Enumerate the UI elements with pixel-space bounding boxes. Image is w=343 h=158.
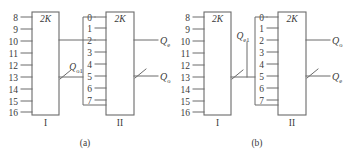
panel-b-chip-1-pin-12: 12	[181, 61, 191, 71]
panel-b-output-label-1: Qo	[332, 35, 342, 48]
panel-b-chip-2-pin-1: 1	[259, 24, 264, 34]
panel-a-output-bus-slash-icon	[135, 69, 146, 78]
panel-a-chip-2-type: 2K	[114, 14, 126, 24]
panel-a-chip-2-pin-1: 1	[87, 24, 92, 34]
panel-b-chip-1-roman: I	[216, 118, 219, 128]
panel-a-chip-1-pin-16: 16	[9, 108, 19, 118]
panel-b-chip-1-pin-9: 9	[185, 25, 190, 35]
panel-b-chip-2-roman: II	[289, 118, 295, 128]
panel-a-chip-2-pin-7: 7	[87, 96, 92, 106]
panel-a-chip-1-pin-9: 9	[13, 25, 18, 35]
panel-b-chip-2-pin-5: 5	[259, 72, 264, 82]
panel-a-output-label-2: Qo	[160, 71, 170, 84]
panel-b-chip-2-type: 2K	[286, 14, 298, 24]
panel-a-interconnect-label: Qo1	[69, 62, 82, 74]
panel-b: 2K I 8 9 10 11 12 13 14 15 16 2K II 0 1 …	[181, 12, 343, 149]
panel-b-chip-2-body	[278, 12, 306, 115]
panel-b-output-bus-slash-icon	[307, 69, 318, 78]
panel-b-interconnect-label: Qe1	[236, 31, 249, 43]
panel-b-chip-2-pin-6: 6	[259, 84, 264, 94]
figure-root: 2K I 8 9 10 11 12 13 14 15 16 2K II 0 1 …	[0, 0, 343, 158]
panel-a-chip-1-pin-10: 10	[9, 37, 19, 47]
panel-b-chip-1-pin-15: 15	[181, 97, 191, 107]
circuit-figure: 2K I 8 9 10 11 12 13 14 15 16 2K II 0 1 …	[0, 0, 343, 158]
panel-b-chip-2-pin-3: 3	[259, 48, 264, 58]
panel-a-chip-1-pin-11: 11	[9, 49, 18, 59]
panel-a-chip-2-pin-5: 5	[87, 72, 92, 82]
panel-b-chip-2-pin-7: 7	[259, 96, 264, 106]
panel-b-chip-2-pin-4: 4	[259, 60, 264, 70]
panel-b-caption: (b)	[251, 138, 262, 149]
panel-b-chip-2-pin-2: 2	[259, 36, 264, 46]
panel-a-chip-1-type: 2K	[40, 14, 52, 24]
panel-b-output-label-2: Qe	[332, 71, 342, 84]
panel-a-chip-1-body	[32, 12, 59, 115]
panel-b-chip-1-pin-14: 14	[181, 85, 191, 95]
panel-b-chip-1-pin-13: 13	[181, 73, 191, 83]
panel-a-chip-1-roman: I	[44, 118, 47, 128]
panel-a-chip-2-pin-6: 6	[87, 84, 92, 94]
panel-a-output-label-1: Qe	[160, 35, 170, 48]
panel-a-chip-1-pin-8: 8	[13, 13, 18, 23]
panel-a: 2K I 8 9 10 11 12 13 14 15 16 2K II 0 1 …	[9, 12, 171, 149]
panel-b-chip-1-type: 2K	[212, 14, 224, 24]
panel-b-chip-1-pin-11: 11	[181, 49, 190, 59]
panel-b-chip-1-pin-10: 10	[181, 37, 191, 47]
panel-b-chip-1-body	[204, 12, 231, 115]
panel-a-chip-1-pin-13: 13	[9, 73, 19, 83]
panel-b-bus-slash-icon	[232, 70, 243, 79]
panel-a-chip-2-roman: II	[117, 118, 123, 128]
panel-a-chip-1-pin-15: 15	[9, 97, 19, 107]
panel-a-chip-2-pin-3: 3	[87, 48, 92, 58]
panel-a-chip-2-pin-4: 4	[87, 60, 92, 70]
panel-a-caption: (a)	[80, 138, 91, 149]
panel-b-chip-1-pin-16: 16	[181, 108, 191, 118]
panel-a-chip-2-body	[106, 12, 134, 115]
panel-b-chip-1-pin-8: 8	[185, 13, 190, 23]
panel-a-chip-1-pin-12: 12	[9, 61, 19, 71]
panel-a-chip-1-pin-14: 14	[9, 85, 19, 95]
